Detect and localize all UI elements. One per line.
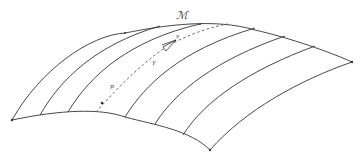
curve-label: γ	[152, 58, 156, 66]
curve-gamma	[96, 24, 228, 112]
top-edge	[12, 24, 352, 120]
right-edge	[210, 62, 352, 150]
vector-label: v	[176, 32, 180, 39]
point-p	[101, 102, 104, 105]
corner-points	[11, 23, 353, 151]
bottom-edge	[12, 111, 210, 150]
manifold-surface	[12, 24, 352, 150]
tangent-vector-arrow	[162, 40, 176, 51]
point-label: p	[110, 82, 114, 90]
manifold-label: ℳ	[176, 9, 190, 22]
manifold-diagram: ℳ v γ p	[0, 0, 362, 159]
